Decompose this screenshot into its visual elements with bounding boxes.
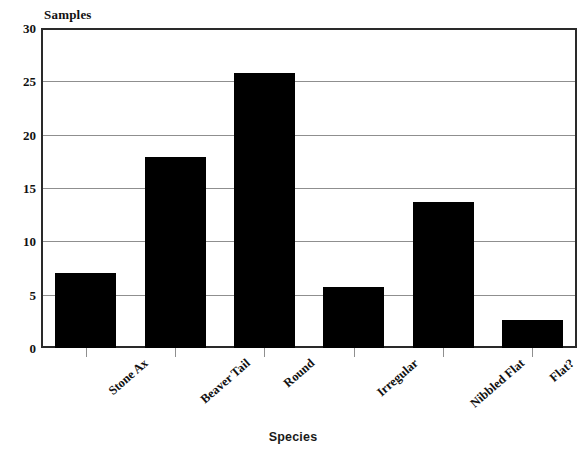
bar xyxy=(55,273,116,348)
x-category-label: Flat? xyxy=(547,356,578,386)
bar xyxy=(234,73,295,348)
y-tick-label: 0 xyxy=(2,342,36,355)
bars-layer xyxy=(41,28,577,348)
y-tick-label: 20 xyxy=(2,128,36,141)
bar-chart-figure: Samples 051015202530 Stone AxBeaver Tail… xyxy=(0,0,586,464)
x-category-label: Stone Ax xyxy=(105,356,151,399)
x-category-label: Round xyxy=(281,356,318,391)
y-tick-label: 10 xyxy=(2,235,36,248)
x-axis-title: Species xyxy=(0,430,586,444)
y-axis-tick-labels: 051015202530 xyxy=(0,28,36,348)
bar xyxy=(413,202,474,348)
bar xyxy=(502,320,563,348)
y-tick-label: 25 xyxy=(2,75,36,88)
x-category-label: Irregular xyxy=(374,356,421,400)
x-category-label: Beaver Tail xyxy=(198,356,254,407)
y-axis-title: Samples xyxy=(44,7,92,23)
y-tick-label: 30 xyxy=(2,22,36,35)
x-category-label: Nibbled Flat xyxy=(467,356,527,411)
x-axis-tick-labels: Stone AxBeaver TailRoundIrregularNibbled… xyxy=(0,356,586,418)
bar xyxy=(323,287,384,348)
y-tick-label: 15 xyxy=(2,182,36,195)
bar xyxy=(145,157,206,348)
y-tick-label: 5 xyxy=(2,288,36,301)
